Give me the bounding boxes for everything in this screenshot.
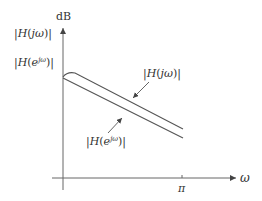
left-label-digital: |H(ejω)| — [14, 56, 54, 70]
x-axis-label: ω — [240, 171, 250, 185]
y-axis-label: dB — [56, 10, 71, 23]
pi-tick-label: π — [177, 182, 186, 195]
digital-response-curve — [63, 78, 183, 138]
digital-curve-label: |H(ejω)| — [86, 135, 126, 149]
digital-label-pointer — [108, 118, 122, 133]
analog-label-pointer — [133, 82, 149, 98]
analog-curve-label: |H(jω)| — [143, 67, 181, 81]
left-label-analog: |H(jω)| — [14, 27, 52, 41]
analog-response-curve — [63, 73, 183, 129]
frequency-response-diagram: dB ω π |H(jω)| |H(ejω)| |H(jω)| |H(ejω)| — [0, 0, 262, 201]
